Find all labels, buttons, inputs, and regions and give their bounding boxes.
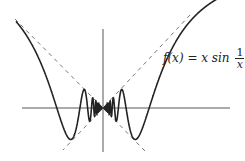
fraction: 1 x [235, 47, 244, 70]
function-label-lhs: f(x) = x sin [163, 51, 230, 65]
function-plot: f(x) = x sin 1 x [0, 0, 245, 161]
function-label: f(x) = x sin 1 x [163, 47, 244, 70]
plot-canvas [0, 0, 245, 161]
dashed-line-y-equals-neg-x [15, 19, 103, 108]
fraction-denominator: x [235, 59, 244, 70]
